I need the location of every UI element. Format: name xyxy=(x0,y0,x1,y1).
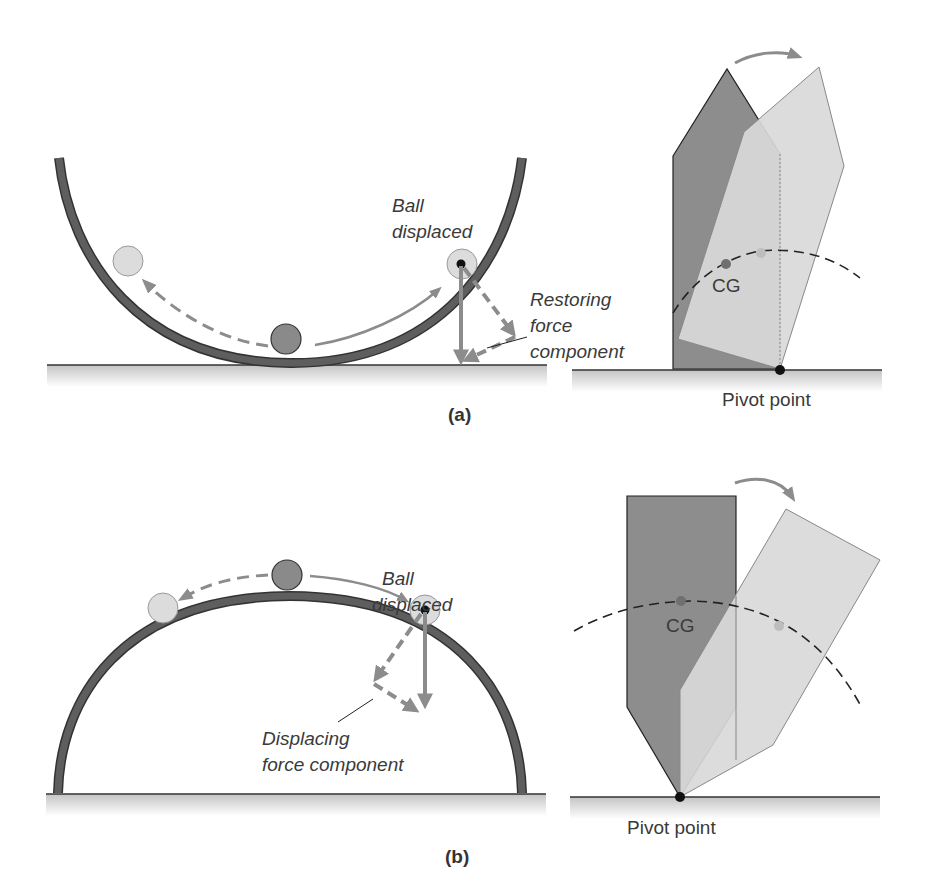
cg-label-a: CG xyxy=(712,275,741,296)
rotation-arrow-a xyxy=(735,53,797,63)
cg-point-tilted-a xyxy=(756,248,766,258)
stability-diagram: Ball displaced Restoring force component… xyxy=(0,0,936,890)
caption-a: (a) xyxy=(448,404,471,425)
cg-point-tilted-b xyxy=(774,621,784,631)
caption-b: (b) xyxy=(445,846,469,867)
ball-displaced-label-b-1: Ball xyxy=(382,568,414,589)
ground-b-right xyxy=(570,797,880,819)
displacing-force-label-1: Displacing xyxy=(262,728,350,749)
rotation-arrow-b xyxy=(735,479,792,497)
ball-displaced-label-a-1: Ball xyxy=(392,195,424,216)
displacing-force-label-2: force component xyxy=(262,754,404,775)
motion-arrow-right xyxy=(315,290,438,345)
pivot-point-a xyxy=(775,365,785,375)
panel-b: Ball displaced Displacing force componen… xyxy=(46,479,880,867)
restoring-force-label-3: component xyxy=(530,341,625,362)
ground-b-left xyxy=(46,794,546,816)
displacing-component-b xyxy=(374,684,414,709)
cg-label-b: CG xyxy=(666,615,695,636)
ground-a-left xyxy=(47,365,547,387)
panel-a: Ball displaced Restoring force component… xyxy=(47,53,882,425)
pivot-label-a: Pivot point xyxy=(722,389,811,410)
ball-displaced-label-b-2: displaced xyxy=(372,594,454,615)
restoring-force-label-2: force xyxy=(530,315,572,336)
cg-point-upright-b xyxy=(676,596,686,606)
ball-left-light-b xyxy=(148,593,178,623)
pivot-label-b: Pivot point xyxy=(627,817,716,838)
restoring-force-label-1: Restoring xyxy=(530,289,612,310)
pivot-point-b xyxy=(675,792,685,802)
ball-top-dark-b xyxy=(272,560,302,590)
restoring-component-a xyxy=(468,337,515,359)
label-leader-b xyxy=(338,699,373,722)
ball-displaced-label-a-2: displaced xyxy=(392,221,474,242)
ball-left-light xyxy=(113,246,143,276)
ball-center-dark xyxy=(271,324,301,354)
cg-point-upright-a xyxy=(721,259,731,269)
